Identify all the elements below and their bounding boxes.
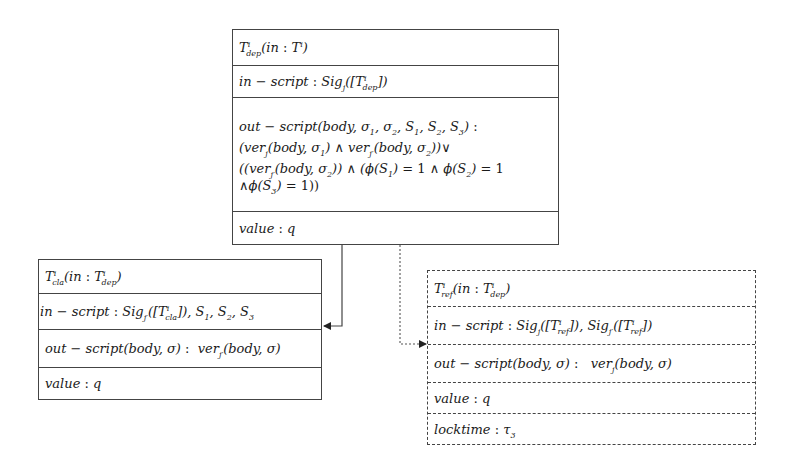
claim-transaction-box: Ticla(in : Tidep) in − script : Sigj′([T… xyxy=(38,259,322,400)
deposit-header: Tidep(in : Ti) xyxy=(233,30,558,65)
claim-in-script-text: in − script : Sigj′([Ticla]), S1, S2, S3 xyxy=(40,303,315,320)
refund-header: Tiref(in : Tidep) xyxy=(428,271,755,306)
deposit-in-script: in − script : Sigj([Tidep]) xyxy=(233,65,558,97)
edge-deposit-to-claim xyxy=(324,245,342,326)
deposit-out-line-2: (verj(body, σ1) ∧ verj′(body, σ2))∨ xyxy=(239,139,552,156)
deposit-out-script: out − script(body, σ1, σ2, S1, S2, S3) :… xyxy=(233,97,558,211)
deposit-value-text: value : q xyxy=(239,220,552,237)
refund-out-script: out − script(body, σ) : verj(body, σ) xyxy=(428,344,755,382)
deposit-header-text: Tidep(in : Ti) xyxy=(239,39,552,56)
refund-in-script: in − script : Sigj([Tiref]), Sigj′([Tire… xyxy=(428,306,755,344)
claim-value: value : q xyxy=(39,367,321,399)
deposit-value: value : q xyxy=(233,211,558,244)
claim-out-script-text: out − script(body, σ) : verj′(body, σ) xyxy=(45,340,315,357)
deposit-in-script-text: in − script : Sigj([Tidep]) xyxy=(239,73,552,90)
refund-out-script-text: out − script(body, σ) : verj(body, σ) xyxy=(434,355,749,372)
deposit-transaction-box: Tidep(in : Ti) in − script : Sigj([Tidep… xyxy=(232,29,559,245)
refund-locktime-text: locktime : τ3 xyxy=(434,421,749,438)
refund-header-text: Tiref(in : Tidep) xyxy=(434,280,749,297)
refund-value: value : q xyxy=(428,382,755,413)
deposit-out-line-4: ∧ϕ(S3) = 1)) xyxy=(239,177,552,194)
refund-value-text: value : q xyxy=(434,390,749,407)
claim-header: Ticla(in : Tidep) xyxy=(39,260,321,293)
claim-header-text: Ticla(in : Tidep) xyxy=(45,268,315,285)
edge-deposit-to-refund xyxy=(400,245,426,344)
deposit-out-line-1: out − script(body, σ1, σ2, S1, S2, S3) : xyxy=(239,118,552,135)
claim-out-script: out − script(body, σ) : verj′(body, σ) xyxy=(39,329,321,367)
claim-in-script: in − script : Sigj′([Ticla]), S1, S2, S3 xyxy=(39,293,321,329)
refund-transaction-box: Tiref(in : Tidep) in − script : Sigj([Ti… xyxy=(427,270,756,445)
claim-value-text: value : q xyxy=(45,375,315,392)
refund-in-script-text: in − script : Sigj([Tiref]), Sigj′([Tire… xyxy=(434,317,749,334)
refund-locktime: locktime : τ3 xyxy=(428,413,755,444)
deposit-out-line-3: ((verj′(body, σ2)) ∧ (ϕ(S1) = 1 ∧ ϕ(S2) … xyxy=(239,160,552,177)
